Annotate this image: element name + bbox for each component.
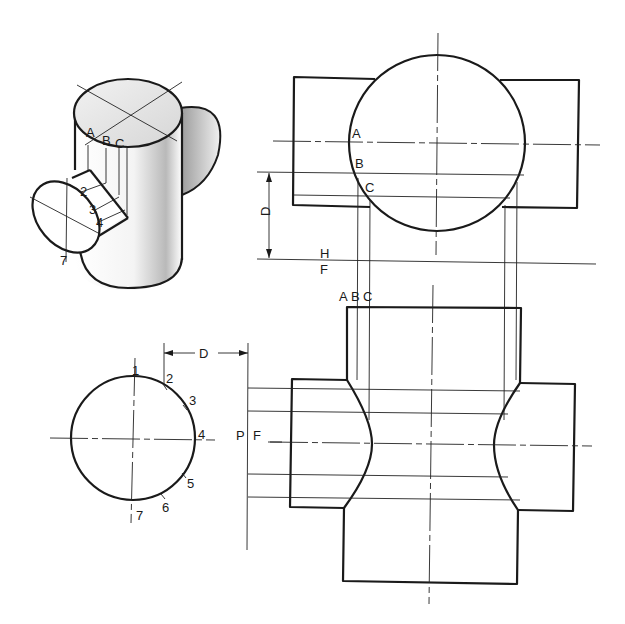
front-label-a: A xyxy=(339,289,348,304)
front-label-b: B xyxy=(351,289,360,304)
top-label-a: A xyxy=(352,126,361,141)
front-label-c: C xyxy=(363,289,372,304)
pictorial-label-7: 7 xyxy=(60,253,67,268)
pictorial-label-c: C xyxy=(115,136,124,151)
fold-label-p: P xyxy=(236,428,245,443)
side-view: P F D 1 2 3 4 5 6 7 xyxy=(50,343,282,550)
fold-label-h: H xyxy=(320,246,329,261)
side-label-4: 4 xyxy=(198,427,205,442)
drawing-canvas: A B C 2 3 4 7 D A B C H xyxy=(0,0,625,624)
top-view: D A B C H F xyxy=(257,33,600,420)
top-dim-d-label: D xyxy=(258,207,273,216)
fold-label-f-top: F xyxy=(320,262,328,277)
pictorial-label-2: 2 xyxy=(80,184,87,199)
pictorial-label-b: B xyxy=(102,133,111,148)
side-label-2: 2 xyxy=(166,371,173,386)
top-label-b: B xyxy=(355,156,364,171)
front-view: A B C xyxy=(248,285,592,604)
side-label-3: 3 xyxy=(189,393,196,408)
pictorial-label-a: A xyxy=(86,125,95,140)
side-dim-d-label: D xyxy=(199,346,208,361)
side-label-1: 1 xyxy=(132,363,139,378)
side-label-6: 6 xyxy=(162,500,169,515)
pictorial-label-4: 4 xyxy=(96,215,103,230)
fold-label-f-side: F xyxy=(253,428,261,443)
side-label-5: 5 xyxy=(187,476,194,491)
top-label-c: C xyxy=(365,180,374,195)
side-label-7: 7 xyxy=(136,508,143,523)
pictorial-view: A B C 2 3 4 7 xyxy=(19,79,220,290)
